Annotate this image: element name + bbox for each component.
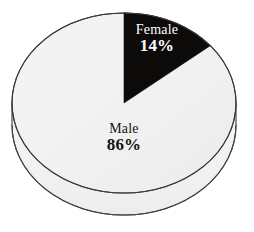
pie-chart: Female 14% Male 86% — [0, 0, 254, 232]
pie-chart-canvas — [0, 0, 254, 232]
